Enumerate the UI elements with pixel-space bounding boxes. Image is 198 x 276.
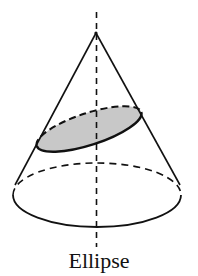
figure-caption: Ellipse: [0, 247, 198, 275]
cone-ellipse-diagram: [0, 0, 198, 276]
cone-apex: [94, 31, 97, 34]
cone-sides: [15, 33, 180, 185]
base-ellipse: [13, 163, 181, 227]
